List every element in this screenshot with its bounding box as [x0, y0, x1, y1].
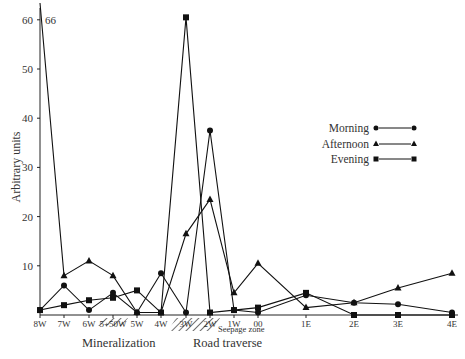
x-tick-label-7w: 7W — [58, 319, 72, 329]
marker-afternoon-2w — [207, 195, 214, 202]
series-line-evening — [40, 17, 452, 315]
marker-evening-4w — [158, 310, 164, 316]
marker-afternoon-7w — [61, 272, 68, 279]
x-tick-label-4e: 4E — [447, 319, 458, 329]
x-tick-label-5w: 5W — [131, 319, 145, 329]
legend-label-afternoon: Afternoon — [322, 138, 370, 150]
y-tick-label-20: 20 — [22, 211, 34, 223]
marker-morning-3e — [395, 301, 401, 307]
marker-evening-2e — [351, 312, 357, 318]
marker-morning-3w — [183, 310, 189, 316]
x-tick-label-8w: 8W — [34, 319, 48, 329]
axes: 1020304050608W7W6W5+50W5W4W3W2W1W001E2E3… — [22, 8, 458, 329]
series-markers — [37, 14, 456, 318]
region-label-mineralization: Mineralization — [82, 336, 156, 350]
y-tick-label-10: 10 — [22, 260, 34, 272]
region-label-road-traverse: Road traverse — [193, 336, 263, 350]
marker-evening-1w — [231, 307, 237, 313]
legend-marker-end-evening — [412, 157, 417, 162]
chart: 1020304050608W7W6W5+50W5W4W3W2W1W001E2E3… — [0, 0, 465, 359]
legend-marker-end-afternoon — [411, 141, 417, 147]
series-line-afternoon — [40, 3, 452, 313]
legend-marker-end-morning — [412, 126, 417, 131]
marker-evening-00 — [255, 305, 261, 311]
legend-label-evening: Evening — [331, 153, 370, 166]
marker-afternoon-00 — [255, 259, 262, 266]
legend-marker-start-morning — [374, 126, 379, 131]
marker-afternoon-4e — [449, 269, 456, 276]
marker-afternoon-6w — [86, 257, 93, 264]
marker-evening-5-50w — [110, 295, 116, 301]
marker-evening-8w — [37, 307, 43, 313]
seepage-zone-label: Seepage zone — [218, 324, 265, 334]
y-tick-label-30: 30 — [22, 161, 34, 173]
legend-marker-start-afternoon — [373, 141, 379, 147]
x-tick-label-2e: 2E — [349, 319, 360, 329]
y-tick-label-60: 60 — [22, 14, 34, 26]
marker-evening-6w — [86, 297, 92, 303]
marker-morning-6w — [86, 307, 92, 313]
marker-evening-5w — [134, 287, 140, 293]
labels: Arbitrary units 66 Seepage zone Minerali… — [9, 14, 265, 350]
marker-evening-3w — [183, 14, 189, 20]
marker-afternoon-5-50w — [110, 272, 117, 279]
y-axis-title: Arbitrary units — [9, 131, 23, 202]
marker-evening-1e — [303, 290, 309, 296]
legend-marker-start-evening — [374, 157, 379, 162]
legend-label-morning: Morning — [329, 122, 370, 135]
marker-morning-2w — [207, 128, 213, 134]
y-tick-label-40: 40 — [22, 112, 34, 124]
marker-evening-2w — [207, 310, 213, 316]
hatch-seepage-zone — [168, 318, 220, 331]
annotation-off-scale-66: 66 — [45, 14, 57, 26]
x-tick-label-4w: 4W — [155, 319, 169, 329]
marker-morning-4w — [158, 270, 164, 276]
marker-evening-7w — [61, 302, 67, 308]
series-line-morning — [40, 131, 452, 313]
x-tick-label-1e: 1E — [301, 319, 312, 329]
marker-morning-7w — [61, 282, 67, 288]
legend: MorningAfternoonEvening — [322, 122, 417, 166]
marker-evening-3e — [395, 312, 401, 318]
x-tick-label-3e: 3E — [393, 319, 404, 329]
marker-evening-4e — [449, 312, 455, 318]
y-tick-label-50: 50 — [22, 63, 34, 75]
x-tick-label-6w: 6W — [83, 319, 97, 329]
